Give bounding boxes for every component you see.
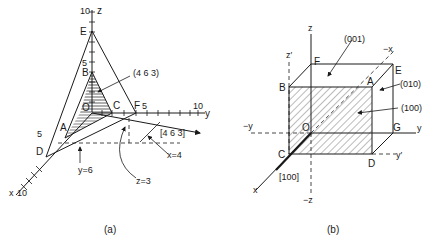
point-D-b: D — [368, 158, 375, 169]
annotation-y6: y=6 — [78, 165, 93, 175]
plane-label-001: (001) — [344, 34, 365, 44]
direction-label-100: [100] — [279, 172, 299, 182]
minus-y-label: −y — [243, 121, 253, 131]
minus-x-label: −x — [383, 44, 393, 54]
point-O: O — [82, 102, 90, 113]
leader-z3 — [120, 127, 136, 178]
minus-z-label: −z — [303, 195, 313, 205]
caption-a: (a) — [104, 224, 116, 235]
y-prime-label: y′ — [396, 150, 403, 160]
plane-label-100: (100) — [401, 103, 422, 113]
point-B: B — [82, 67, 89, 78]
z-prime-label: z′ — [286, 50, 293, 60]
caption-b: (b) — [327, 224, 339, 235]
z-axis-label-b: z — [308, 23, 313, 33]
x-axis-label: x — [9, 188, 14, 198]
point-O-b: O — [302, 122, 310, 133]
y-tick-10: 10 — [193, 101, 203, 111]
leader-x4 — [148, 136, 168, 154]
point-E: E — [80, 26, 87, 37]
point-A-b: A — [367, 76, 374, 87]
point-E-b: E — [395, 65, 402, 76]
x-axis — [16, 113, 92, 195]
direction-label-463: [4 6 3] — [160, 128, 185, 138]
annotation-x4: x=4 — [167, 150, 182, 160]
annotation-z3: z=3 — [136, 176, 151, 186]
point-C-b: C — [278, 149, 285, 160]
leader-001 — [328, 40, 352, 76]
y-axis-label: y — [205, 108, 210, 119]
z-tick-10: 10 — [80, 6, 90, 16]
x-axis-label-b: x — [253, 185, 258, 195]
point-D: D — [36, 146, 43, 157]
x-tick-10: 10 — [17, 188, 27, 198]
point-G-b: G — [393, 122, 401, 133]
point-A: A — [60, 122, 67, 133]
z-axis-label: z — [97, 5, 102, 16]
point-B-b: B — [279, 82, 286, 93]
point-C: C — [113, 100, 120, 111]
leader-plane — [98, 76, 130, 92]
point-F: F — [134, 100, 140, 111]
point-F-b: F — [314, 56, 320, 67]
leader-010 — [380, 84, 400, 90]
figure-a: 10 z E 5 B (4 6 3) O C F 5 10 y A 5 D [4… — [9, 5, 210, 235]
diagram-canvas: 10 z E 5 B (4 6 3) O C F 5 10 y A 5 D [4… — [0, 0, 434, 248]
plane-label-010: (010) — [400, 79, 421, 89]
figure-b: z (001) −x z′ F E A B (010) (100) −y O G… — [243, 23, 422, 235]
plane-label-463: (4 6 3) — [133, 68, 159, 78]
y-tick-5: 5 — [142, 101, 147, 111]
x-tick-5: 5 — [37, 129, 42, 139]
y-axis-label-b: y — [417, 123, 422, 133]
leader-direction — [140, 122, 160, 142]
